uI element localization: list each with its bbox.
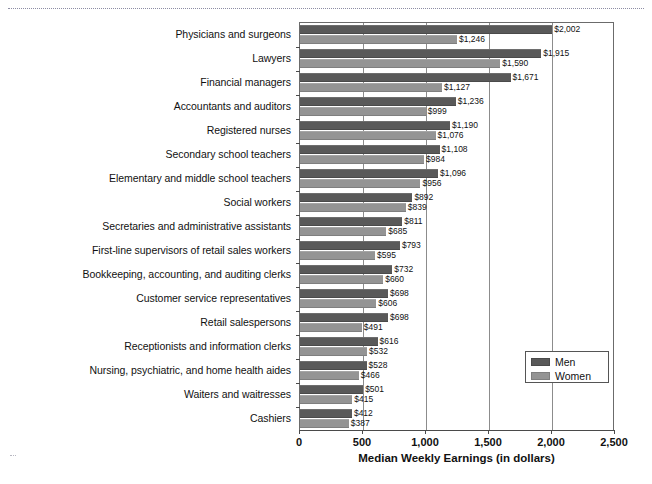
category-label-row: Customer service representatives xyxy=(136,286,291,310)
category-label: Secondary school teachers xyxy=(166,149,291,160)
bar-women xyxy=(300,371,359,380)
category-label-row: Lawyers xyxy=(252,46,291,70)
bar-row: $412$387 xyxy=(300,407,615,431)
category-label-row: Secondary school teachers xyxy=(166,142,291,166)
bar-value-label-men: $412 xyxy=(352,409,373,418)
bar-value-label-women: $387 xyxy=(349,419,370,428)
category-label: Registered nurses xyxy=(207,125,291,136)
bar-women xyxy=(300,299,376,308)
category-label: First-line supervisors of retail sales w… xyxy=(92,245,291,256)
category-label-row: Waiters and waitresses xyxy=(184,382,291,406)
bar-row: $793$595 xyxy=(300,239,615,263)
bar-row: $1,190$1,076 xyxy=(300,119,615,143)
bar-women xyxy=(300,275,383,284)
scan-artifact-line xyxy=(8,8,644,9)
bar-value-label-men: $1,915 xyxy=(541,49,569,58)
category-label: Retail salespersons xyxy=(200,317,291,328)
bar-row: $1,236$999 xyxy=(300,95,615,119)
bar-value-label-women: $1,127 xyxy=(442,83,470,92)
bar-value-label-men: $2,002 xyxy=(552,25,580,34)
bar-row: $1,671$1,127 xyxy=(300,71,615,95)
bar-value-label-men: $1,096 xyxy=(438,169,466,178)
category-label: Elementary and middle school teachers xyxy=(109,173,291,184)
bar-row: $1,915$1,590 xyxy=(300,47,615,71)
x-axis-tick xyxy=(425,430,426,434)
bar-women xyxy=(300,131,436,140)
bar-men xyxy=(300,289,388,298)
legend-swatch-men-icon xyxy=(531,358,550,366)
bar-row: $501$415 xyxy=(300,383,615,407)
bar-value-label-women: $532 xyxy=(367,347,388,356)
bar-value-label-men: $616 xyxy=(378,337,399,346)
x-axis-tick-label: 2,000 xyxy=(537,436,565,448)
bar-value-label-women: $839 xyxy=(406,203,427,212)
legend-label-men: Men xyxy=(555,356,575,368)
bar-value-label-women: $595 xyxy=(375,251,396,260)
category-label-row: Bookkeeping, accounting, and auditing cl… xyxy=(82,262,291,286)
bar-women xyxy=(300,323,362,332)
bar-value-label-men: $732 xyxy=(392,265,413,274)
bar-value-label-women: $984 xyxy=(424,155,445,164)
bar-value-label-men: $698 xyxy=(388,313,409,322)
bar-women xyxy=(300,35,457,44)
bar-women xyxy=(300,251,375,260)
category-label: Social workers xyxy=(223,197,291,208)
category-label: Waiters and waitresses xyxy=(184,389,291,400)
bar-value-label-women: $466 xyxy=(359,371,380,380)
bar-men xyxy=(300,169,438,178)
bar-women xyxy=(300,395,352,404)
x-axis-tick xyxy=(614,430,615,434)
category-label-row: Retail salespersons xyxy=(200,310,291,334)
bar-men xyxy=(300,361,367,370)
bar-men xyxy=(300,217,402,226)
bar-men xyxy=(300,97,456,106)
bar-value-label-men: $1,236 xyxy=(456,97,484,106)
legend-item-men: Men xyxy=(531,355,608,368)
bar-men xyxy=(300,121,450,130)
bar-men xyxy=(300,49,541,58)
bar-value-label-men: $501 xyxy=(363,385,384,394)
x-axis-title: Median Weekly Earnings (in dollars) xyxy=(299,452,614,464)
bar-women xyxy=(300,227,386,236)
scan-artifact-mark xyxy=(10,455,16,456)
bar-value-label-men: $528 xyxy=(367,361,388,370)
bar-row: $732$660 xyxy=(300,263,615,287)
bar-value-label-women: $415 xyxy=(352,395,373,404)
bar-value-label-women: $956 xyxy=(420,179,441,188)
bar-row: $2,002$1,246 xyxy=(300,23,615,47)
bar-value-label-women: $606 xyxy=(376,299,397,308)
bar-value-label-men: $892 xyxy=(412,193,433,202)
bar-women xyxy=(300,59,500,68)
category-label: Secretaries and administrative assistant… xyxy=(102,221,291,232)
x-axis-tick xyxy=(551,430,552,434)
chart-legend: Men Women xyxy=(525,351,609,383)
category-label-row: Registered nurses xyxy=(207,118,291,142)
category-label: Lawyers xyxy=(252,53,291,64)
bar-men xyxy=(300,193,412,202)
category-label-row: Financial managers xyxy=(200,70,291,94)
bar-row: $698$606 xyxy=(300,287,615,311)
bar-value-label-men: $1,671 xyxy=(511,73,539,82)
bar-men xyxy=(300,337,378,346)
category-label-row: Physicians and surgeons xyxy=(175,22,291,46)
legend-item-women: Women xyxy=(531,369,608,382)
category-label-row: Social workers xyxy=(223,190,291,214)
bar-women xyxy=(300,107,426,116)
x-axis-tick-label: 0 xyxy=(296,436,302,448)
bar-men xyxy=(300,385,363,394)
x-axis-tick xyxy=(362,430,363,434)
bar-row: $1,108$984 xyxy=(300,143,615,167)
category-label-row: Receptionists and information clerks xyxy=(124,334,291,358)
bar-men xyxy=(300,145,440,154)
category-label: Accountants and auditors xyxy=(174,101,291,112)
bar-value-label-men: $698 xyxy=(388,289,409,298)
x-axis-tick xyxy=(299,430,300,434)
category-label: Nursing, psychiatric, and home health ai… xyxy=(89,365,291,376)
bar-men xyxy=(300,409,352,418)
bar-men xyxy=(300,241,400,250)
x-axis-tick xyxy=(488,430,489,434)
bar-women xyxy=(300,419,349,428)
bar-value-label-men: $1,108 xyxy=(440,145,468,154)
bar-men xyxy=(300,25,552,34)
bar-value-label-men: $811 xyxy=(402,217,422,226)
